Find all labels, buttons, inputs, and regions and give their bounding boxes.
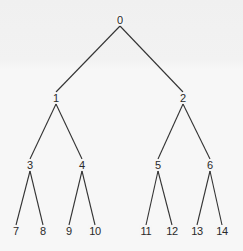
edge-1-3	[30, 104, 56, 159]
edge-3-8	[30, 171, 43, 225]
edge-0-2	[120, 26, 183, 92]
tree-node-9: 9	[65, 226, 73, 237]
tree-node-11: 11	[140, 226, 153, 237]
edge-0-1	[56, 26, 120, 92]
edge-3-7	[16, 171, 30, 225]
tree-node-10: 10	[88, 226, 102, 237]
tree-node-13: 13	[190, 226, 204, 237]
edge-2-5	[158, 104, 183, 159]
tree-node-1: 1	[52, 93, 60, 104]
tree-node-14: 14	[215, 226, 229, 237]
tree-diagram: 01234567891011121314	[0, 0, 243, 251]
tree-node-12: 12	[165, 226, 179, 237]
tree-node-5: 5	[154, 160, 162, 171]
edge-4-10	[82, 171, 95, 225]
tree-node-4: 4	[78, 160, 86, 171]
tree-node-8: 8	[39, 226, 47, 237]
edge-6-14	[210, 171, 222, 225]
tree-node-2: 2	[179, 93, 187, 104]
edge-2-6	[183, 104, 210, 159]
edge-1-4	[56, 104, 82, 159]
tree-node-0: 0	[116, 15, 124, 26]
edge-4-9	[69, 171, 82, 225]
edge-6-13	[197, 171, 210, 225]
edge-5-12	[158, 171, 172, 225]
edge-5-11	[146, 171, 158, 225]
tree-node-3: 3	[26, 160, 34, 171]
tree-node-6: 6	[206, 160, 214, 171]
tree-node-7: 7	[12, 226, 20, 237]
tree-edges	[0, 0, 243, 251]
